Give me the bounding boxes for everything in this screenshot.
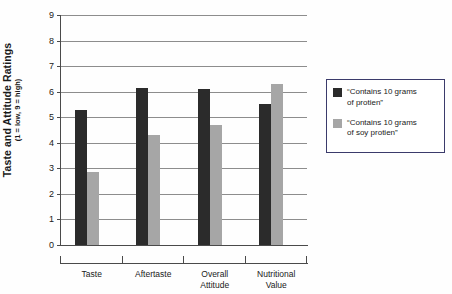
- x-axis-separator-4: [306, 256, 307, 264]
- y-tick-label-7: 7: [40, 62, 54, 71]
- y-tick-mark-2: [57, 194, 61, 195]
- y-tick-mark-9: [57, 15, 61, 16]
- y-tick-label-6: 6: [40, 87, 54, 96]
- y-tick-mark-0: [57, 245, 61, 246]
- x-axis-label-3: Nutritional Value: [246, 269, 308, 290]
- legend-swatch-icon-series-0: [333, 88, 342, 97]
- legend: “Contains 10 grams of protien” “Contains…: [326, 79, 445, 153]
- gridline-0: [61, 245, 307, 246]
- bar-series-1-category-3: [271, 84, 283, 245]
- y-axis-title: Taste and Attitude Ratings: [2, 25, 13, 195]
- bar-series-1-category-1: [148, 135, 160, 245]
- x-axis-separator-0: [60, 256, 61, 264]
- legend-swatch-icon-series-1: [333, 119, 342, 128]
- y-tick-mark-4: [57, 143, 61, 144]
- y-tick-mark-6: [57, 92, 61, 93]
- y-tick-mark-8: [57, 41, 61, 42]
- legend-label-series-0-line1: “Contains 10 grams: [347, 87, 417, 98]
- bar-series-0-category-2: [198, 89, 210, 245]
- x-axis-label-2: Overall Attitude: [184, 269, 246, 290]
- gridline-6: [61, 92, 307, 93]
- bar-series-0-category-1: [136, 88, 148, 245]
- legend-label-series-1: “Contains 10 grams of soy protien”: [347, 118, 417, 140]
- x-axis-label-1: Aftertaste: [123, 269, 185, 280]
- x-axis-separator-1: [122, 256, 123, 264]
- y-tick-label-9: 9: [40, 11, 54, 20]
- gridline-8: [61, 41, 307, 42]
- x-axis-separator-3: [245, 256, 246, 264]
- bar-series-1-category-2: [210, 125, 222, 245]
- y-tick-label-3: 3: [40, 164, 54, 173]
- bar-chart: Taste and Attitude Ratings (1 = low, 9 =…: [0, 0, 452, 294]
- y-tick-label-0: 0: [40, 241, 54, 250]
- y-tick-mark-5: [57, 117, 61, 118]
- y-tick-mark-1: [57, 219, 61, 220]
- y-axis-line: [60, 15, 61, 246]
- legend-label-series-1-line1: “Contains 10 grams: [347, 118, 417, 129]
- y-tick-label-4: 4: [40, 138, 54, 147]
- legend-label-series-1-line2: of soy protien”: [347, 128, 417, 139]
- plot-area: 0123456789 TasteAftertasteOverall Attitu…: [61, 15, 307, 245]
- x-axis-category-line: [60, 263, 308, 264]
- y-tick-mark-3: [57, 168, 61, 169]
- gridline-9: [61, 15, 307, 16]
- gridline-7: [61, 66, 307, 67]
- y-tick-label-2: 2: [40, 189, 54, 198]
- bar-series-1-category-0: [87, 172, 99, 245]
- legend-item-1: “Contains 10 grams of soy protien”: [333, 118, 439, 140]
- y-tick-label-8: 8: [40, 36, 54, 45]
- x-axis-label-0: Taste: [61, 269, 123, 280]
- y-tick-label-5: 5: [40, 113, 54, 122]
- x-axis-separator-2: [183, 256, 184, 264]
- legend-item-0: “Contains 10 grams of protien”: [333, 87, 439, 109]
- bar-series-0-category-3: [259, 104, 271, 245]
- legend-label-series-0: “Contains 10 grams of protien”: [347, 87, 417, 109]
- y-axis-title-group: Taste and Attitude Ratings (1 = low, 9 =…: [2, 25, 42, 195]
- y-tick-label-1: 1: [40, 215, 54, 224]
- y-tick-mark-7: [57, 66, 61, 67]
- bar-series-0-category-0: [75, 110, 87, 245]
- legend-label-series-0-line2: of protien”: [347, 98, 417, 109]
- y-axis-subtitle: (1 = low, 9 = high): [14, 25, 22, 195]
